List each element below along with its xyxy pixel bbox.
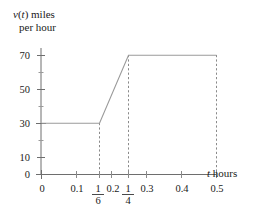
y-tick-label-30: 30 <box>10 118 30 129</box>
y-axis-label-line2: per hour <box>13 21 56 34</box>
y-tick-label-50: 50 <box>10 84 30 95</box>
y-axis-label-units-1: miles <box>28 8 55 20</box>
dashed-guide-lines <box>100 55 217 174</box>
x-tick-label-0-4: 0.4 <box>171 183 193 194</box>
one-sixth-denominator: 6 <box>91 195 105 206</box>
x-tick-label-one-sixth: 1 6 <box>91 183 105 206</box>
y-axis-label-line1: v(t) miles <box>13 8 56 21</box>
x-axis-label-units: hours <box>210 167 237 179</box>
x-tick-label-0-3: 0.3 <box>136 183 158 194</box>
y-tick-label-10: 10 <box>10 152 30 163</box>
x-tick-label-0-5: 0.5 <box>206 183 228 194</box>
y-tick-label-70: 70 <box>10 50 30 61</box>
one-sixth-numerator: 1 <box>91 183 105 194</box>
one-quarter-numerator: 1 <box>121 183 135 194</box>
x-tick-label-0-1: 0.1 <box>66 183 88 194</box>
x-tick-label-0: 0 <box>31 183 53 194</box>
velocity-time-graph-figure: v(t) miles per hour t hours 70 50 30 10 … <box>0 0 255 216</box>
x-tick-label-one-quarter: 1 4 <box>121 183 135 206</box>
y-axis-label: v(t) miles per hour <box>13 8 56 34</box>
one-quarter-denominator: 4 <box>121 195 135 206</box>
x-axis-label: t hours <box>207 167 237 180</box>
y-tick-label-0: 0 <box>10 169 30 180</box>
